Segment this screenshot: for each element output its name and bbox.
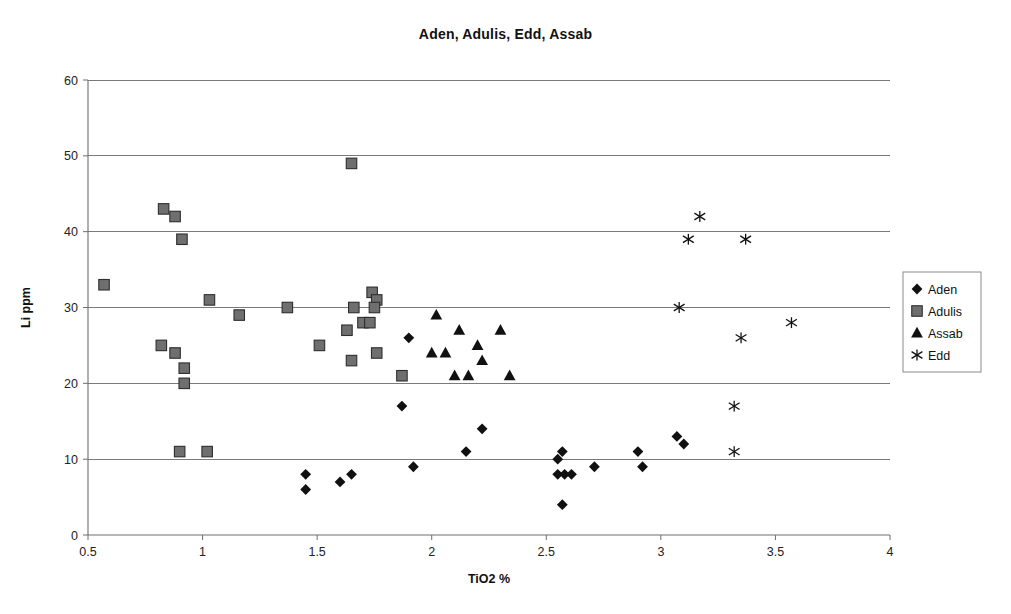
x-tick-label-4: 2.5 xyxy=(538,545,555,559)
point-adulis-24 xyxy=(397,371,408,382)
chart-container: Aden, Adulis, Edd, Assab 0.511.522.533.5… xyxy=(0,0,1011,614)
point-edd-0 xyxy=(694,211,705,222)
series-edd xyxy=(674,211,797,457)
legend: AdenAdulisAssabEdd xyxy=(903,272,981,372)
point-adulis-8 xyxy=(174,446,185,457)
point-assab-2 xyxy=(440,347,452,358)
x-axis-ticks: 0.511.522.533.54 xyxy=(79,535,893,559)
point-adulis-1 xyxy=(158,204,169,215)
point-adulis-9 xyxy=(202,446,213,457)
point-assab-0 xyxy=(430,309,442,320)
x-tick-label-5: 3 xyxy=(657,545,664,559)
point-adulis-16 xyxy=(349,302,360,313)
point-adulis-14 xyxy=(346,158,357,169)
point-adulis-3 xyxy=(177,234,188,245)
point-adulis-2 xyxy=(170,211,181,222)
y-tick-label-1: 10 xyxy=(64,453,78,467)
point-edd-4 xyxy=(786,317,797,328)
series-assab xyxy=(426,309,516,380)
point-adulis-18 xyxy=(365,317,376,328)
point-adulis-10 xyxy=(204,295,215,306)
x-tick-label-7: 4 xyxy=(887,545,894,559)
legend-item-adulis[interactable]: Adulis xyxy=(912,305,962,319)
y-tick-label-0: 0 xyxy=(71,529,78,543)
point-aden-16 xyxy=(633,446,644,457)
x-axis-title: TiO2 % xyxy=(468,572,510,586)
point-edd-5 xyxy=(736,332,747,343)
point-edd-2 xyxy=(740,234,751,245)
point-adulis-21 xyxy=(369,302,380,313)
point-aden-18 xyxy=(671,431,682,442)
point-adulis-7 xyxy=(179,378,190,389)
point-adulis-15 xyxy=(342,325,353,336)
y-axis-title: Li ppm xyxy=(19,287,33,328)
legend-item-edd[interactable]: Edd xyxy=(912,349,951,363)
data-points-group xyxy=(99,158,797,510)
x-tick-label-3: 2 xyxy=(428,545,435,559)
point-assab-8 xyxy=(495,324,507,335)
point-aden-14 xyxy=(557,499,568,510)
point-assab-7 xyxy=(476,354,488,365)
point-adulis-5 xyxy=(170,348,181,359)
point-aden-19 xyxy=(678,439,689,450)
legend-label-edd: Edd xyxy=(928,349,950,363)
x-tick-label-2: 1.5 xyxy=(308,545,325,559)
y-axis-ticks: 0102030405060 xyxy=(64,74,88,543)
x-tick-label-1: 1 xyxy=(199,545,206,559)
x-tick-label-0: 0.5 xyxy=(79,545,96,559)
point-aden-6 xyxy=(408,461,419,472)
legend-marker-adulis xyxy=(912,306,923,317)
point-adulis-13 xyxy=(314,340,325,351)
point-edd-1 xyxy=(683,234,694,245)
legend-label-assab: Assab xyxy=(928,327,963,341)
y-tick-label-4: 40 xyxy=(64,225,78,239)
y-tick-label-5: 50 xyxy=(64,149,78,163)
point-aden-15 xyxy=(589,461,600,472)
point-aden-7 xyxy=(461,446,472,457)
x-tick-label-6: 3.5 xyxy=(767,545,784,559)
series-aden xyxy=(300,332,689,510)
point-aden-1 xyxy=(300,484,311,495)
point-adulis-4 xyxy=(156,340,167,351)
legend-label-adulis: Adulis xyxy=(928,305,962,319)
point-aden-0 xyxy=(300,469,311,480)
point-assab-3 xyxy=(453,324,465,335)
y-tick-label-6: 60 xyxy=(64,74,78,88)
point-aden-4 xyxy=(397,401,408,412)
point-adulis-0 xyxy=(99,280,110,291)
scatter-plot: 0.511.522.533.54 0102030405060 AdenAduli… xyxy=(0,0,1011,614)
point-adulis-11 xyxy=(234,310,245,321)
point-aden-13 xyxy=(566,469,577,480)
point-aden-8 xyxy=(477,423,488,434)
point-aden-2 xyxy=(335,477,346,488)
y-tick-label-3: 30 xyxy=(64,301,78,315)
point-edd-6 xyxy=(729,401,740,412)
point-assab-6 xyxy=(472,339,484,350)
point-edd-7 xyxy=(729,446,740,457)
point-aden-5 xyxy=(403,332,414,343)
point-assab-4 xyxy=(449,370,461,381)
gridlines-group xyxy=(88,80,890,459)
point-aden-3 xyxy=(346,469,357,480)
point-assab-5 xyxy=(462,370,474,381)
point-assab-1 xyxy=(426,347,438,358)
y-tick-label-2: 20 xyxy=(64,377,78,391)
point-aden-17 xyxy=(637,461,648,472)
point-adulis-12 xyxy=(282,302,293,313)
legend-label-aden: Aden xyxy=(928,283,957,297)
point-adulis-22 xyxy=(346,355,357,366)
point-adulis-23 xyxy=(371,348,382,359)
point-adulis-6 xyxy=(179,363,190,374)
point-assab-9 xyxy=(504,370,516,381)
